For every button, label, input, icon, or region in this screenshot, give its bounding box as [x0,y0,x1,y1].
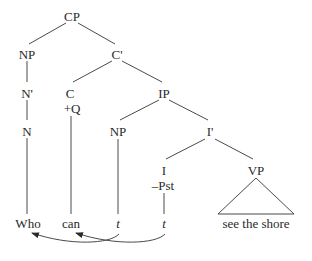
node-cp: CP [64,9,80,24]
node-n-bar: N' [21,86,33,101]
leaf-vp-phrase: see the shore [222,216,289,231]
branch-ip-ibar [169,100,208,120]
leaf-who: Who [15,216,40,231]
node-i: I [162,163,166,178]
node-np-subj: NP [110,124,127,139]
leaf-trace-np: t [116,216,120,231]
movement-arrow-i-to-can [76,233,165,242]
syntax-tree-diagram: CP NP C' N' C +Q IP N NP I' I –Pst VP Wh… [0,0,312,261]
branch-cp-cbar [78,23,115,44]
node-c-bar: C' [111,47,122,62]
leaf-trace-i: t [162,216,166,231]
branch-ibar-vp [215,139,253,159]
vp-triangle [218,178,294,214]
node-n: N [22,124,32,139]
node-i-feature: –Pst [151,178,175,193]
branch-cbar-c [73,61,112,82]
node-c: C [66,86,75,101]
node-i-bar: I' [207,124,214,139]
branch-ibar-i [166,139,205,159]
node-ip: IP [158,86,170,101]
branch-cp-np [29,23,66,44]
node-c-feature: +Q [64,101,81,116]
leaf-can: can [62,216,81,231]
node-vp: VP [248,163,265,178]
node-np-spec: NP [19,47,36,62]
branch-ip-np [120,100,159,120]
branch-cbar-ip [122,61,162,82]
